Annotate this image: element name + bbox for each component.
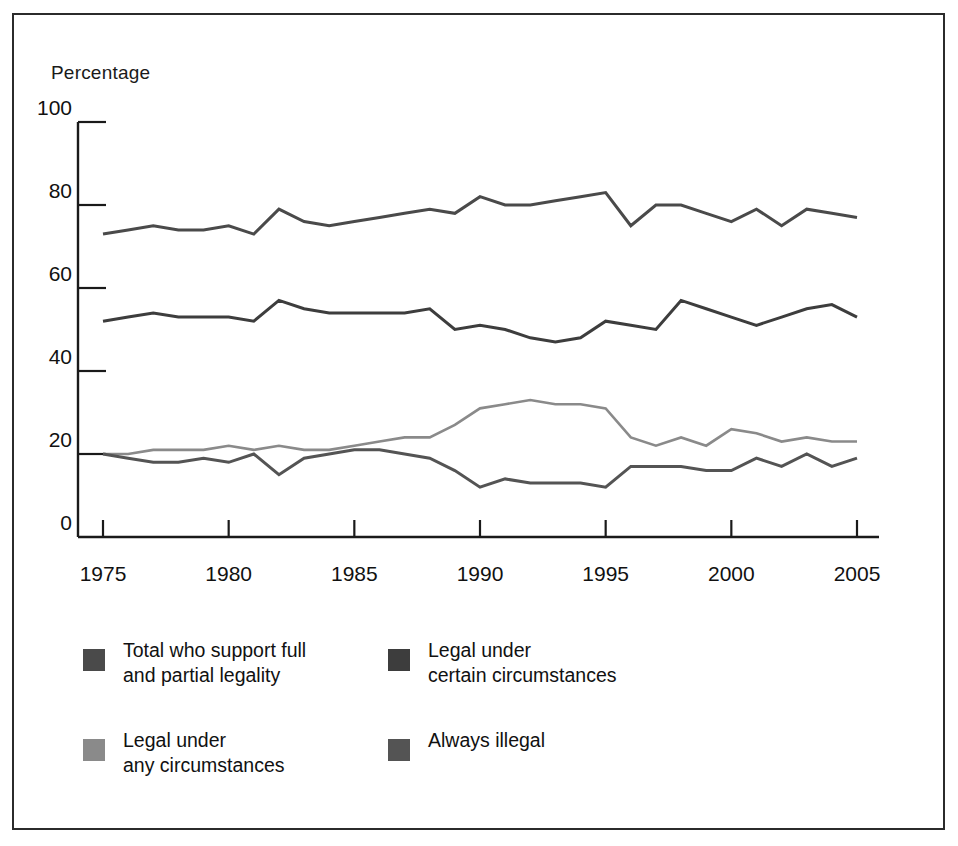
legend-swatch-certain: [388, 649, 410, 671]
x-tick-label-1995: 1995: [561, 562, 651, 586]
series-line-certain: [103, 300, 857, 342]
y-tick-label-80: 80: [26, 179, 72, 203]
y-tick-label-60: 60: [26, 262, 72, 286]
legend-label-any: Legal under any circumstances: [123, 728, 284, 778]
x-tick-label-2000: 2000: [686, 562, 776, 586]
legend-swatch-any: [83, 739, 105, 761]
legend-label-total: Total who support full and partial legal…: [123, 638, 306, 688]
legend-swatch-total: [83, 649, 105, 671]
legend-item-total[interactable]: Total who support full and partial legal…: [83, 638, 306, 688]
y-tick-label-100: 100: [26, 96, 72, 120]
chart-legend: Total who support full and partial legal…: [83, 638, 783, 788]
y-tick-label-20: 20: [26, 428, 72, 452]
x-tick-label-1980: 1980: [184, 562, 274, 586]
series-line-total: [103, 193, 857, 235]
legend-label-certain: Legal under certain circumstances: [428, 638, 617, 688]
x-tick-label-1990: 1990: [435, 562, 525, 586]
legend-item-illegal[interactable]: Always illegal: [388, 728, 545, 761]
x-tick-label-1975: 1975: [58, 562, 148, 586]
figure-container: Percentage 020406080100 1975198019851990…: [0, 0, 958, 846]
series-line-any: [103, 400, 857, 454]
chart-series-lines: [103, 193, 857, 488]
legend-item-any[interactable]: Legal under any circumstances: [83, 728, 284, 778]
legend-label-illegal: Always illegal: [428, 728, 545, 753]
legend-item-certain[interactable]: Legal under certain circumstances: [388, 638, 617, 688]
legend-swatch-illegal: [388, 739, 410, 761]
x-tick-label-1985: 1985: [309, 562, 399, 586]
series-line-illegal: [103, 450, 857, 487]
chart-axes: [78, 122, 879, 537]
x-tick-label-2005: 2005: [812, 562, 902, 586]
y-tick-label-0: 0: [26, 511, 72, 535]
y-tick-label-40: 40: [26, 345, 72, 369]
